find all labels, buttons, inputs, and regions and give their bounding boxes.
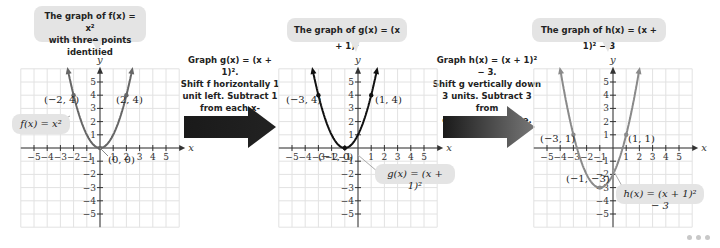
y-tick-label: 3 xyxy=(90,103,96,113)
y-tick-label: −5 xyxy=(341,209,355,219)
y-tick-label: −2 xyxy=(341,169,354,179)
x-tick-label: 4 xyxy=(408,152,414,162)
point-label: (−2, 4) xyxy=(44,94,79,105)
x-tick-label: −5 xyxy=(285,152,299,162)
x-tick-label: 2 xyxy=(382,152,388,162)
y-tick-label: −2 xyxy=(83,169,96,179)
y-tick-label: −3 xyxy=(341,183,355,193)
g-label: g(x) = (x + 1)² xyxy=(375,164,455,184)
y-tick-label: 5 xyxy=(348,77,354,87)
f-label-text: f(x) = x² xyxy=(20,118,62,129)
y-tick-label: 4 xyxy=(348,90,354,100)
x-tick-label: 5 xyxy=(676,152,682,162)
x-axis-label: x xyxy=(188,142,194,153)
y-tick-label: 3 xyxy=(348,103,354,113)
x-tick-label: −2 xyxy=(67,152,80,162)
y-tick-label: 2 xyxy=(348,117,354,127)
point-label: (1, 4) xyxy=(375,94,402,105)
graph-g: xy−5−4−3−2−112345−5−4−3−2−112345 xyxy=(279,54,452,227)
y-tick-label: 5 xyxy=(603,77,609,87)
point-label: (−1, 0) xyxy=(318,151,353,162)
x-tick-label: 5 xyxy=(421,152,427,162)
x-tick-label: 5 xyxy=(163,152,169,162)
y-tick-label: −1 xyxy=(83,156,96,166)
x-tick-label: 1 xyxy=(623,152,629,162)
y-tick-label: 5 xyxy=(90,77,96,87)
x-axis-label: x xyxy=(701,142,707,153)
y-tick-label: −4 xyxy=(83,196,97,206)
x-tick-label: −5 xyxy=(27,152,41,162)
x-tick-label: −4 xyxy=(41,152,55,162)
x-tick-label: 4 xyxy=(663,152,669,162)
y-tick-label: 1 xyxy=(603,130,609,140)
x-tick-label: −5 xyxy=(540,152,554,162)
y-tick-label: −5 xyxy=(83,209,97,219)
y-tick-label: −4 xyxy=(341,196,355,206)
x-tick-label: 3 xyxy=(650,152,656,162)
y-tick-label: 2 xyxy=(603,117,609,127)
graph-f: xy−5−4−3−2−112345−5−4−3−2−112345 xyxy=(21,54,194,227)
h-label: h(x) = (x + 1)² − 3 xyxy=(616,184,704,204)
x-tick-label: 3 xyxy=(137,152,143,162)
x-tick-label: 3 xyxy=(395,152,401,162)
y-tick-label: 4 xyxy=(90,90,96,100)
x-tick-label: −3 xyxy=(54,152,68,162)
more-options-button[interactable] xyxy=(687,235,710,240)
y-tick-label: 3 xyxy=(603,103,609,113)
x-tick-label: 2 xyxy=(637,152,643,162)
y-tick-label: 4 xyxy=(603,90,609,100)
point-label: (2, 4) xyxy=(116,94,143,105)
x-tick-label: 1 xyxy=(368,152,374,162)
point-label: (−1, −3) xyxy=(566,173,610,184)
graph-f: xy−5−4−3−2−112345−5−4−3−2−112345xy−5−4−3… xyxy=(0,0,720,248)
y-tick-label: −4 xyxy=(596,196,610,206)
data-point xyxy=(598,185,602,189)
point-label: (1, 1) xyxy=(628,133,655,144)
y-tick-label: 2 xyxy=(90,117,96,127)
y-tick-label: 1 xyxy=(348,130,354,140)
data-point xyxy=(343,146,347,150)
y-tick-label: 1 xyxy=(90,130,96,140)
y-axis-label: y xyxy=(96,54,103,65)
data-point xyxy=(369,93,373,97)
y-tick-label: −1 xyxy=(596,156,609,166)
y-tick-label: −3 xyxy=(83,183,97,193)
y-tick-label: −5 xyxy=(596,209,610,219)
f-label: f(x) = x² xyxy=(12,114,70,134)
point-label: (−3, 4) xyxy=(286,94,321,105)
x-tick-label: −4 xyxy=(299,152,313,162)
point-label: (0, 0) xyxy=(108,154,135,165)
x-tick-label: 4 xyxy=(150,152,156,162)
point-label: (−3, 1) xyxy=(540,133,575,144)
x-tick-label: −4 xyxy=(554,152,568,162)
y-axis-label: y xyxy=(354,54,361,65)
x-axis-label: x xyxy=(446,142,452,153)
y-axis-label: y xyxy=(609,54,616,65)
